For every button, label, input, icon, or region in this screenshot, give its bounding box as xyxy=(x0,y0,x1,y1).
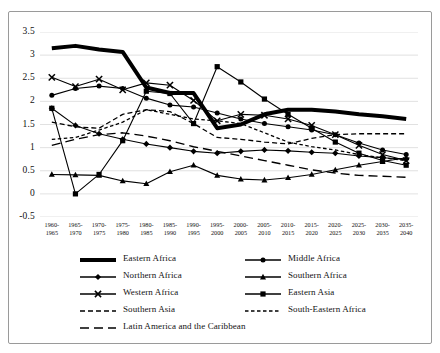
legend-label: Eastern Africa xyxy=(123,253,176,263)
series-western-africa xyxy=(49,74,410,163)
legend-item-eastern-asia[interactable]: Eastern Asia xyxy=(243,283,408,300)
legend-row: Western AfricaEastern Asia xyxy=(78,283,408,300)
legend-item-southern-asia[interactable]: Southern Asia xyxy=(78,300,243,317)
y-tick-label: 0.5 xyxy=(5,165,35,175)
legend-item-middle-africa[interactable]: Middle Africa xyxy=(243,249,408,266)
y-tick-label: 3 xyxy=(5,49,35,59)
y-tick-label: -0.5 xyxy=(5,211,35,221)
y-tick-label: 1 xyxy=(5,142,35,152)
y-tick-label: 1.5 xyxy=(5,119,35,129)
x-tick-label: 2015-2020 xyxy=(299,221,325,237)
legend-label: Latin America and the Caribbean xyxy=(123,321,246,331)
legend-label: Southern Africa xyxy=(288,270,347,280)
x-tick-label: 2010-2015 xyxy=(275,221,301,237)
legend-swatch-diamond-icon xyxy=(78,269,118,281)
chart-screenshot: 3.532.521.510.50-0.5 1960-19651965-19701… xyxy=(0,0,440,353)
legend-item-western-africa[interactable]: Western Africa xyxy=(78,283,243,300)
legend-item-southern-africa[interactable]: Southern Africa xyxy=(243,266,408,283)
legend-label: Eastern Asia xyxy=(288,287,334,297)
legend-label: Middle Africa xyxy=(288,253,340,263)
legend-label: Northern Africa xyxy=(123,270,182,280)
line-chart-svg xyxy=(40,32,418,217)
legend-item-south-eastern-africa[interactable]: South-Eastern Africa xyxy=(243,300,408,317)
x-tick-label: 2005-2010 xyxy=(251,221,277,237)
x-tick-label: 2025-2030 xyxy=(346,221,372,237)
legend-swatch-triangle-icon xyxy=(243,269,283,281)
x-tick-label: 1995-2000 xyxy=(204,221,230,237)
legend-swatch-circle-icon xyxy=(243,252,283,264)
legend-swatch-cross-icon xyxy=(78,286,118,298)
legend-label: Southern Asia xyxy=(123,304,175,314)
legend-label: South-Eastern Africa xyxy=(288,304,366,314)
legend-swatch-dashed-icon xyxy=(78,303,118,315)
x-tick-label: 2035-2040 xyxy=(393,221,419,237)
x-tick-label: 1985-1990 xyxy=(157,221,183,237)
series-middle-africa xyxy=(49,84,408,157)
x-tick-label: 1980-1985 xyxy=(133,221,159,237)
legend-swatch-dotted-icon xyxy=(243,303,283,315)
legend-swatch-longdash-icon xyxy=(78,320,118,332)
legend-row: Latin America and the Caribbean xyxy=(78,317,408,334)
x-tick-label: 1965-1970 xyxy=(62,221,88,237)
legend-swatch-solid-icon xyxy=(78,252,118,264)
legend-label: Western Africa xyxy=(123,287,178,297)
legend-row: Northern AfricaSouthern Africa xyxy=(78,266,408,283)
x-tick-label: 2020-2025 xyxy=(322,221,348,237)
legend-item-northern-africa[interactable]: Northern Africa xyxy=(78,266,243,283)
plot-area xyxy=(40,32,418,217)
y-tick-label: 0 xyxy=(5,188,35,198)
x-tick-label: 1960-1965 xyxy=(39,221,65,237)
x-tick-label: 1990-1995 xyxy=(181,221,207,237)
legend-item-latin-america-and-the-caribbean[interactable]: Latin America and the Caribbean xyxy=(78,317,408,334)
y-tick-label: 2 xyxy=(5,95,35,105)
legend-row: Eastern AfricaMiddle Africa xyxy=(78,249,408,266)
x-tick-label: 1975-1980 xyxy=(110,221,136,237)
legend-row: Southern AsiaSouth-Eastern Africa xyxy=(78,300,408,317)
chart-legend: Eastern AfricaMiddle AfricaNorthern Afri… xyxy=(78,249,408,334)
legend-swatch-square-icon xyxy=(243,286,283,298)
y-tick-label: 3.5 xyxy=(5,26,35,36)
x-tick-label: 1970-1975 xyxy=(86,221,112,237)
x-tick-label: 2000-2005 xyxy=(228,221,254,237)
y-tick-label: 2.5 xyxy=(5,72,35,82)
legend-item-eastern-africa[interactable]: Eastern Africa xyxy=(78,249,243,266)
x-tick-label: 2030-2035 xyxy=(370,221,396,237)
